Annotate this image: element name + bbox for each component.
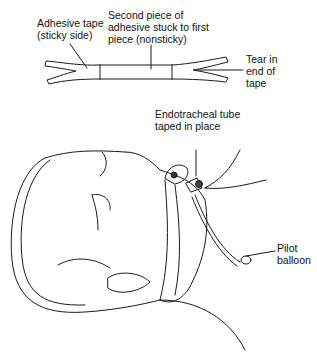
endotracheal-tube	[186, 150, 275, 266]
label-tear-in-end: Tear in end of tape	[246, 53, 278, 89]
tape-strip	[45, 44, 243, 84]
label-pilot-balloon: Pilot balloon	[277, 242, 311, 266]
label-adhesive-tape: Adhesive tape (sticky side)	[37, 17, 104, 41]
label-second-piece: Second piece of adhesive stuck to first …	[108, 9, 209, 45]
head-drawing	[11, 150, 266, 350]
label-endotracheal-tube: Endotracheal tube taped in place	[155, 108, 240, 132]
diagram-canvas: Adhesive tape (sticky side) Second piece…	[0, 0, 317, 364]
